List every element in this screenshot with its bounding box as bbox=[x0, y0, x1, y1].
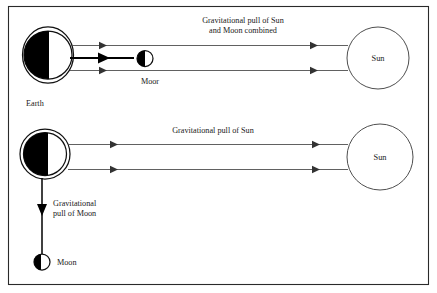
ray-upper-sun bbox=[68, 141, 348, 148]
moon-label-top: Moor bbox=[141, 77, 159, 86]
moon-pull-label-line1: Gravitational bbox=[53, 199, 97, 208]
moon-pull-label-line2: pull of Moon bbox=[53, 209, 96, 218]
ray-earth-to-moon bbox=[70, 53, 134, 64]
sun-label-bottom: Sun bbox=[373, 153, 387, 162]
panel-spring-tide: Sun Gravitational pull of Sun and Moon c… bbox=[23, 16, 410, 108]
sun-label-top: Sun bbox=[371, 54, 385, 63]
sun-pull-label: Gravitational pull of Sun bbox=[172, 126, 254, 135]
ray-lower-combined bbox=[70, 67, 348, 74]
combined-pull-label-line1: Gravitational pull of Sun bbox=[202, 16, 284, 25]
combined-pull-label-line2: and Moon combined bbox=[209, 26, 277, 35]
ray-earth-to-moon-vertical bbox=[37, 178, 47, 256]
ray-upper-combined bbox=[70, 42, 348, 49]
panel-neap-tide: Sun Gravitational pull of Sun Gravitatio… bbox=[20, 124, 413, 270]
moon-label-bottom: Moon bbox=[57, 258, 77, 267]
tidal-forces-diagram: Sun Gravitational pull of Sun and Moon c… bbox=[0, 0, 437, 293]
ray-lower-sun bbox=[68, 166, 348, 173]
earth-label: Earth bbox=[26, 99, 44, 108]
